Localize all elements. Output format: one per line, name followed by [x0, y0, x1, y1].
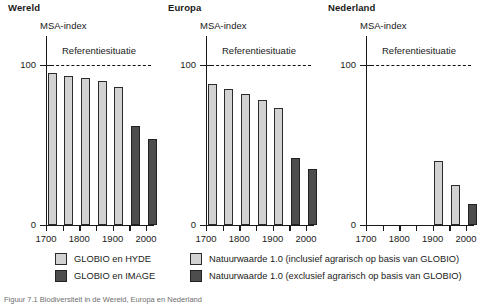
plot-area-europa: 100 0 Referentiesituatie 170018001900200…	[162, 0, 322, 248]
legend-swatch-dark-icon	[190, 270, 202, 282]
legend-label: Natuurwaarde 1.0 (inclusief agrarisch op…	[209, 253, 459, 265]
bar	[208, 84, 217, 225]
x-tick	[306, 226, 307, 231]
reference-line-label: Referentiesituatie	[62, 45, 136, 56]
legend-swatch-dark-icon	[55, 270, 67, 282]
x-tick	[146, 226, 147, 231]
chart-panel-wereld: Wereld MSA-index 100 0 Referentiesituati…	[2, 0, 162, 248]
chart-panel-europa: Europa MSA-index 100 0 Referentiesituati…	[162, 0, 322, 248]
legend-label: GLOBIO en HYDE	[74, 253, 151, 265]
x-tick	[416, 226, 417, 231]
bar	[291, 158, 300, 225]
x-tick	[366, 226, 367, 231]
x-tick	[96, 226, 97, 231]
bar	[48, 73, 57, 225]
x-tick	[449, 226, 450, 231]
y-tick-label-0: 0	[166, 219, 196, 230]
bar	[308, 169, 317, 225]
x-tick-label: 2000	[446, 233, 486, 244]
plot-area-wereld: 100 0 Referentiesituatie 170018001900200…	[2, 0, 162, 248]
bar	[224, 89, 233, 225]
x-tick	[256, 226, 257, 231]
x-tick	[433, 226, 434, 231]
x-tick-label: 2000	[286, 233, 326, 244]
y-tick-label-100: 100	[166, 59, 196, 70]
x-tick	[79, 226, 80, 231]
x-tick	[113, 226, 114, 231]
figure-caption: Figuur 7.1 Biodiversiteit in de Wereld, …	[4, 295, 490, 304]
bar	[148, 139, 157, 225]
bar	[81, 78, 90, 225]
bar	[241, 94, 250, 225]
x-tick	[129, 226, 130, 231]
x-tick	[206, 226, 207, 231]
x-tick	[289, 226, 290, 231]
bar	[64, 76, 73, 225]
y-tick-label-0: 0	[326, 219, 356, 230]
legend-swatch-light-icon	[55, 253, 67, 265]
bar	[98, 81, 107, 225]
y-tick-label-0: 0	[6, 219, 36, 230]
x-tick	[63, 226, 64, 231]
legend-item-natuurwaarde-inclusief: Natuurwaarde 1.0 (inclusief agrarisch op…	[190, 251, 490, 267]
x-tick	[399, 226, 400, 231]
bar	[114, 87, 123, 225]
x-tick	[383, 226, 384, 231]
bar	[434, 161, 443, 225]
y-tick-label-100: 100	[326, 59, 356, 70]
bar	[274, 108, 283, 225]
x-tick	[466, 226, 467, 231]
plot-area-nederland: 100 0 Referentiesituatie 170018001900200…	[322, 0, 482, 248]
legend-item-globio-image: GLOBIO en IMAGE	[55, 268, 205, 284]
bar	[468, 204, 477, 225]
legend: GLOBIO en HYDE GLOBIO en IMAGE Natuurwaa…	[0, 250, 490, 286]
legend-item-globio-hyde: GLOBIO en HYDE	[55, 251, 205, 267]
legend-label: GLOBIO en IMAGE	[74, 270, 155, 282]
bar	[451, 185, 460, 225]
reference-line-label: Referentiesituatie	[382, 45, 456, 56]
x-tick	[239, 226, 240, 231]
reference-line	[371, 65, 471, 66]
x-tick-label: 2000	[126, 233, 166, 244]
x-tick	[223, 226, 224, 231]
legend-item-natuurwaarde-exclusief: Natuurwaarde 1.0 (exclusief agrarisch op…	[190, 268, 490, 284]
legend-label: Natuurwaarde 1.0 (exclusief agrarisch op…	[209, 270, 462, 282]
legend-swatch-light-icon	[190, 253, 202, 265]
y-tick-label-100: 100	[6, 59, 36, 70]
x-tick	[273, 226, 274, 231]
x-tick	[46, 226, 47, 231]
bar	[131, 126, 140, 225]
chart-panel-nederland: Nederland MSA-index 100 0 Referentiesitu…	[322, 0, 482, 248]
reference-line	[211, 65, 311, 66]
bar	[258, 100, 267, 225]
reference-line-label: Referentiesituatie	[222, 45, 296, 56]
reference-line	[51, 65, 151, 66]
